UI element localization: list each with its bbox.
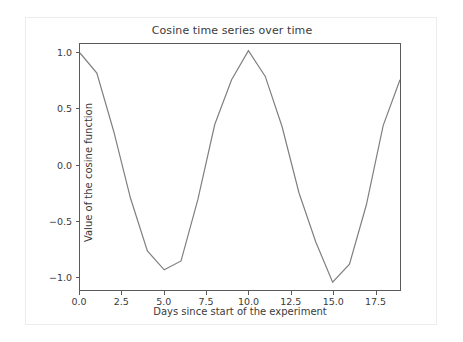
x-tick-mark: [376, 291, 377, 295]
cosine-line-series: [80, 51, 400, 282]
x-tick-mark: [248, 291, 249, 295]
x-tick-mark: [333, 291, 334, 295]
chart-figure: Cosine time series over time 1.00.50.0−0…: [25, 17, 437, 325]
x-tick-mark: [164, 291, 165, 295]
plot-area: [79, 43, 401, 291]
x-tick-mark: [121, 291, 122, 295]
y-axis-label: Value of the cosine function: [83, 49, 94, 297]
x-tick-mark: [291, 291, 292, 295]
x-tick-mark: [79, 291, 80, 295]
x-axis-label: Days since start of the experiment: [79, 306, 401, 317]
line-series-svg: [80, 44, 400, 290]
x-tick-mark: [206, 291, 207, 295]
